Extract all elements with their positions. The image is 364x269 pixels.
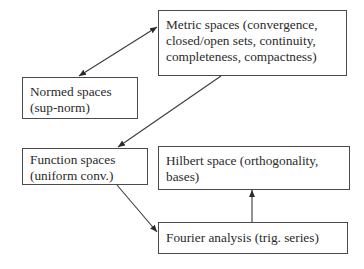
edge-normed-metric-bidirectional-arrow <box>79 27 157 76</box>
node-normed-line-1: Normed spaces <box>30 84 130 100</box>
node-fourier-line-1: Fourier analysis (trig. series) <box>166 230 340 246</box>
node-normed-line-2: (sup-norm) <box>30 100 130 116</box>
node-fourier-analysis: Fourier analysis (trig. series) <box>158 222 348 254</box>
node-function-line-1: Function spaces <box>30 152 140 168</box>
edge-function-to-fourier-arrow <box>117 185 157 232</box>
node-function-line-2: (uniform conv.) <box>30 168 140 184</box>
node-hilbert-space: Hilbert space (orthogonality, bases) <box>158 146 350 190</box>
node-metric-line-3: completeness, compactness) <box>166 49 339 65</box>
node-metric-spaces: Metric spaces (convergence, closed/open … <box>158 10 347 76</box>
node-hilbert-line-1: Hilbert space (orthogonality, <box>166 153 342 169</box>
node-metric-line-2: closed/open sets, continuity, <box>166 33 339 49</box>
node-hilbert-line-2: bases) <box>166 169 342 185</box>
node-normed-spaces: Normed spaces (sup-norm) <box>22 77 138 119</box>
node-metric-line-1: Metric spaces (convergence, <box>166 17 339 33</box>
node-function-spaces: Function spaces (uniform conv.) <box>22 148 148 185</box>
concept-diagram: Metric spaces (convergence, closed/open … <box>0 0 364 269</box>
